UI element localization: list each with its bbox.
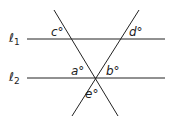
- angle-c-label: c°: [51, 25, 64, 39]
- label-l1: ℓ1: [8, 31, 20, 47]
- angle-e-label: e°: [85, 87, 98, 101]
- angle-a-label: a°: [71, 64, 84, 78]
- angle-b-label: b°: [106, 64, 120, 78]
- angle-d-label: d°: [129, 25, 143, 39]
- parallel-lines-diagram: ℓ1 ℓ2 c° d° a° b° e°: [0, 0, 174, 124]
- label-l2: ℓ2: [8, 70, 20, 86]
